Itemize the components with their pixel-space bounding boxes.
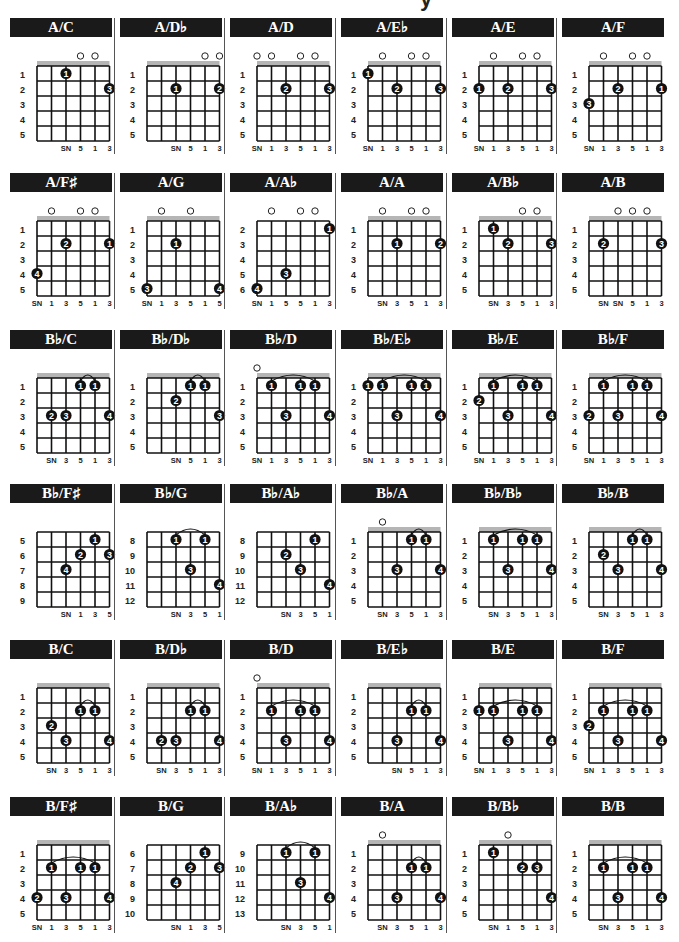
open-string-marker — [629, 208, 635, 214]
interval-label: 5 — [520, 766, 524, 775]
finger-number: 3 — [283, 269, 288, 279]
interval-label: SN — [377, 923, 387, 932]
interval-label: 1 — [203, 144, 207, 153]
fretboard-diagram: 12345321SN13513 — [562, 18, 675, 168]
finger-number: 3 — [298, 878, 303, 888]
interval-label: SN — [598, 299, 608, 308]
chord-diagram: B/F♯12345213114SN13513 — [10, 797, 123, 942]
interval-label: 1 — [506, 923, 510, 932]
finger-number: 2 — [49, 411, 54, 421]
interval-label: SN — [171, 610, 181, 619]
interval-label: SN — [61, 610, 71, 619]
column-divider — [556, 18, 557, 154]
interval-label: 3 — [549, 144, 553, 153]
fret-number: 5 — [572, 752, 577, 762]
interval-label: 5 — [203, 610, 207, 619]
interval-label: 3 — [107, 144, 111, 153]
interval-label: 1 — [203, 456, 207, 465]
fret-number: 1 — [572, 70, 577, 80]
open-string-marker — [423, 208, 429, 214]
interval-label: 1 — [327, 610, 331, 619]
fret-number: 2 — [240, 397, 245, 407]
column-divider — [224, 484, 225, 620]
fretboard-diagram: 123452113SN513 — [120, 330, 233, 480]
finger-number: 3 — [615, 736, 620, 746]
finger-number: 2 — [438, 239, 443, 249]
interval-label: 1 — [645, 144, 649, 153]
fret-number: 4 — [130, 427, 135, 437]
interval-label: 3 — [438, 456, 442, 465]
finger-number: 2 — [505, 84, 510, 94]
interval-label: 3 — [395, 923, 399, 932]
finger-number: 1 — [601, 381, 606, 391]
finger-number: 1 — [423, 381, 428, 391]
fret-number: 2 — [462, 707, 467, 717]
interval-label: 3 — [174, 299, 178, 308]
fret-number: 1 — [130, 70, 135, 80]
finger-number: 4 — [659, 736, 664, 746]
fret-number: 5 — [20, 909, 25, 919]
interval-label: 3 — [107, 923, 111, 932]
interval-label: 3 — [659, 456, 663, 465]
interval-label: 3 — [616, 144, 620, 153]
fretboard-diagram: 123453114SN3513 — [341, 797, 454, 942]
finger-number: 2 — [283, 84, 288, 94]
interval-label: SN — [142, 299, 152, 308]
interval-label: SN — [584, 766, 594, 775]
fret-number: 3 — [572, 100, 577, 110]
finger-number: 1 — [630, 706, 635, 716]
finger-number: 2 — [586, 411, 591, 421]
fret-number: 2 — [462, 551, 467, 561]
open-string-marker — [534, 53, 540, 59]
chord-diagram: B♭/D1234513114SN13513 — [230, 330, 343, 480]
fret-number: 1 — [20, 849, 25, 859]
column-divider — [335, 18, 336, 154]
finger-number: 4 — [107, 411, 112, 421]
interval-label: SN — [584, 144, 594, 153]
fret-number: 5 — [462, 442, 467, 452]
fret-number: 1 — [351, 382, 356, 392]
fret-number: 1 — [20, 70, 25, 80]
finger-number: 1 — [534, 381, 539, 391]
column-divider — [224, 797, 225, 933]
finger-number: 4 — [327, 411, 332, 421]
chord-diagram: A/F12345321SN13513 — [562, 18, 675, 168]
fret-number: 3 — [351, 566, 356, 576]
finger-number: 1 — [312, 381, 317, 391]
finger-number: 3 — [217, 863, 222, 873]
chord-chart-page: yA/C1234513SN513A/D♭1234512SN513A/D12345… — [0, 0, 679, 942]
fret-number: 12 — [125, 596, 135, 606]
interval-label: 3 — [203, 923, 207, 932]
finger-number: 1 — [298, 706, 303, 716]
fret-number: 4 — [572, 894, 577, 904]
interval-label: 5 — [313, 610, 317, 619]
interval-label: 1 — [313, 766, 317, 775]
interval-label: SN — [377, 610, 387, 619]
chord-diagram: B♭/G891011121314SN351 — [120, 484, 233, 634]
interval-label: 5 — [630, 923, 634, 932]
interval-label: SN — [171, 456, 181, 465]
fret-number: 5 — [462, 285, 467, 295]
fret-number: 4 — [20, 894, 25, 904]
fret-number: 3 — [462, 722, 467, 732]
fret-number: 5 — [20, 536, 25, 546]
finger-number: 1 — [78, 706, 83, 716]
fret-number: 4 — [572, 270, 577, 280]
fret-number: 5 — [572, 596, 577, 606]
interval-label: 3 — [327, 766, 331, 775]
fret-number: 3 — [572, 566, 577, 576]
fret-number: 2 — [462, 397, 467, 407]
fret-number: 6 — [20, 551, 25, 561]
fret-number: 1 — [572, 849, 577, 859]
fret-number: 5 — [351, 285, 356, 295]
fret-number: 1 — [462, 536, 467, 546]
finger-number: 3 — [505, 736, 510, 746]
interval-label: 5 — [520, 144, 524, 153]
open-string-marker — [254, 675, 260, 681]
finger-number: 3 — [107, 84, 112, 94]
interval-label: 3 — [284, 144, 288, 153]
interval-label: 3 — [616, 610, 620, 619]
finger-number: 1 — [630, 381, 635, 391]
interval-label: 3 — [298, 923, 302, 932]
column-divider — [556, 484, 557, 620]
